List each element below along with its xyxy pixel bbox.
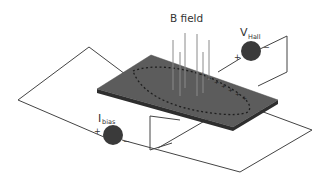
v-hall-minus: − (263, 43, 270, 52)
svg-text:+: + (221, 82, 226, 89)
hall-voltmeter: V Hall + − (234, 26, 270, 62)
i-bias-plus: + (94, 127, 101, 136)
svg-text:+: + (207, 74, 212, 81)
svg-text:+: + (242, 94, 247, 101)
i-bias-minus: − (123, 137, 130, 146)
b-field-label: B field (170, 12, 203, 24)
bias-current-source: I bias + − (94, 112, 130, 146)
hall-effect-diagram: + + + + + + + B field V Hall + − I bias … (0, 0, 328, 184)
svg-text:+: + (228, 86, 233, 93)
hall-circuit-wire (150, 116, 180, 150)
i-bias-main: I (98, 112, 101, 125)
v-hall-sub: Hall (248, 33, 261, 41)
i-bias-sub: bias (102, 118, 116, 126)
hall-circuit-wire-upper (158, 119, 208, 148)
svg-text:+: + (214, 78, 219, 85)
svg-text:+: + (235, 90, 240, 97)
v-hall-main: V (240, 26, 248, 39)
v-hall-plus: + (234, 53, 241, 62)
